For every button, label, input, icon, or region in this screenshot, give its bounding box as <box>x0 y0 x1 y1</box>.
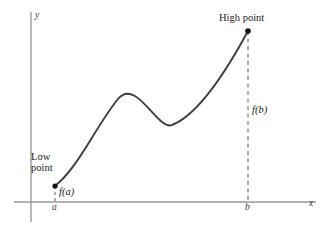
low-point-dot <box>52 183 57 188</box>
low-point-label-line1: Low <box>31 151 53 162</box>
graph-canvas <box>0 0 330 228</box>
y-axis-label: y <box>35 10 39 20</box>
x-tick-label-a: a <box>52 202 57 212</box>
high-point-label: High point <box>219 12 264 23</box>
function-curve <box>55 31 248 186</box>
x-axis-label: x <box>309 198 313 208</box>
x-tick-label-b: b <box>245 202 250 212</box>
function-graph-figure: High point Low point f(a) f(b) a b x y <box>0 0 330 228</box>
f-of-a-label: f(a) <box>59 186 74 197</box>
low-point-label-line2: point <box>31 162 53 173</box>
f-of-b-label: f(b) <box>252 104 267 115</box>
low-point-label: Low point <box>31 151 53 174</box>
high-point-dot <box>245 28 251 34</box>
